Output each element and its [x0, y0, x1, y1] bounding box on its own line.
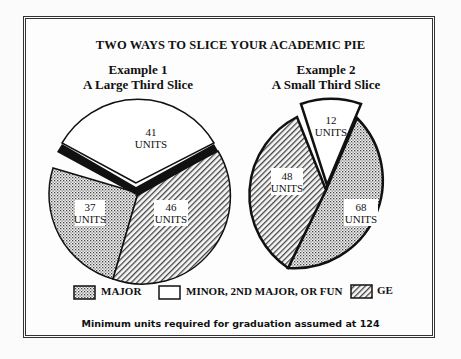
label-p2-ge: 48 [282, 170, 294, 182]
pie-charts: 41 UNITS 37 UNITS 46 UNITS 12 UNITS 48 U… [0, 0, 461, 359]
label-p1-ge-units: UNITS [155, 213, 187, 225]
label-p1-minor-units: UNITS [135, 138, 167, 150]
label-p2-minor-units: UNITS [315, 126, 347, 138]
label-p2-major-units: UNITS [345, 213, 377, 225]
label-p2-ge-units: UNITS [271, 182, 303, 194]
legend-label-minor: MINOR, 2ND MAJOR, OR FUN [186, 285, 342, 297]
legend-swatch-ge [351, 285, 372, 298]
legend-swatch-major [74, 286, 95, 299]
pie-example-2 [249, 99, 382, 268]
legend-label-ge: GE [377, 284, 393, 296]
label-p1-minor: 41 [146, 126, 157, 138]
label-p1-ge: 46 [166, 201, 178, 213]
label-p1-major: 37 [85, 201, 97, 213]
legend-swatch-minor [159, 286, 180, 299]
legend-label-major: MAJOR [101, 285, 141, 297]
label-p2-minor: 12 [326, 114, 337, 126]
pie-example-1 [49, 99, 230, 284]
footnote: Minimum units required for graduation as… [0, 318, 461, 329]
label-p1-major-units: UNITS [74, 213, 106, 225]
label-p2-major: 68 [356, 201, 368, 213]
